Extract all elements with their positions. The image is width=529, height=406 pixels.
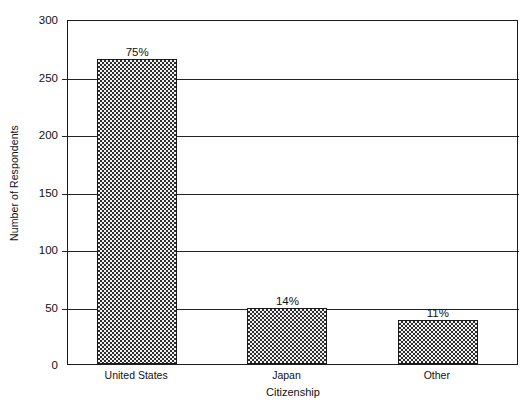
x-axis-title: Citizenship (67, 386, 519, 398)
bar-chart: Number of Respondents 050100150200250300… (0, 0, 529, 406)
x-tick-label: Japan (272, 369, 301, 381)
bar: 11% (398, 320, 478, 364)
plot-area: 75%14%11% (67, 20, 518, 365)
bar: 14% (247, 308, 327, 364)
y-tick-label: 50 (12, 302, 58, 314)
bar-value-label: 14% (276, 295, 299, 307)
bar-value-label: 11% (427, 307, 449, 319)
bar: 75% (97, 59, 177, 364)
x-tick-label: United States (105, 369, 168, 381)
y-tick-label: 200 (12, 129, 58, 141)
y-axis-tick-labels: 050100150200250300 (0, 0, 58, 406)
x-tick-label: Other (424, 369, 450, 381)
y-tick-label: 100 (12, 244, 58, 256)
y-tick-label: 0 (12, 359, 58, 371)
y-tick-label: 250 (12, 72, 58, 84)
y-tick-label: 300 (12, 14, 58, 26)
bar-value-label: 75% (126, 46, 149, 58)
y-tick-label: 150 (12, 187, 58, 199)
